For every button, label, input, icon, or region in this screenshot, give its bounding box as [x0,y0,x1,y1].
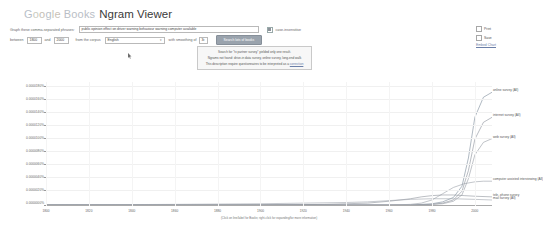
x-tick-label: 1820 [85,209,92,213]
corpus-selected-value: English [108,37,119,44]
chart-footnote: (Click on line/label for Books; right-cl… [221,216,317,220]
series-label[interactable]: online survey (All) [493,88,518,92]
gridline [46,125,492,126]
series-label[interactable]: internet survey (All) [493,113,520,117]
page-title: Ngram Viewer [99,8,172,20]
x-tick-label: 2000 [471,209,478,213]
y-tick-label: 0.0000160% [26,97,44,101]
y-tick-label: 0.0000140% [26,110,44,114]
notice-line-1: Search for "tv partner survey" yielded o… [202,50,307,54]
gridline [46,138,492,139]
vertical-gridline [132,82,133,206]
x-tick-label: 1840 [128,209,135,213]
y-tick-label: 0.0000100% [26,136,44,140]
gridline [46,177,492,178]
vertical-gridline [218,82,219,206]
year-start-input[interactable]: 1800 [27,37,42,44]
gridline [46,164,492,165]
print-label: Print [484,27,491,31]
y-tick-label: 0.0000000% [26,201,44,205]
x-tick-label: 1900 [257,209,264,213]
plot-area[interactable]: 1800182018401860188019001920194019601980… [46,82,492,206]
year-end-input[interactable]: 2000 [54,37,69,44]
x-tick-label: 1920 [300,209,307,213]
x-tick-label: 1800 [42,209,49,213]
vertical-gridline [475,82,476,206]
embed-chart-link[interactable]: Embed Chart [476,43,496,47]
gridline [46,151,492,152]
notice-correction-link[interactable]: correction [290,62,304,66]
vertical-gridline [346,82,347,206]
corpus-label: from the corpus [76,38,101,42]
x-tick-label: 1860 [171,209,178,213]
save-action[interactable]: Save [476,35,496,41]
y-tick-label: 0.0000120% [26,123,44,127]
corpus-select[interactable]: English ▾ [105,37,165,44]
case-insensitive-checkbox[interactable] [267,27,273,33]
y-tick-label: 0.0000180% [26,84,44,88]
gridline [46,99,492,100]
series-label[interactable]: web survey (All) [493,135,516,139]
save-icon [476,35,482,41]
phrases-input[interactable]: public opinion effect on driver warning … [79,26,259,33]
x-tick-label: 1980 [428,209,435,213]
print-action[interactable]: Print [476,26,496,32]
y-axis-labels: 0.0000180% 0.0000160% 0.0000140% 0.00001… [6,82,46,206]
query-row-phrases: Graph these comma-separated phrases: pub… [10,26,301,33]
series-label[interactable]: computer assisted interviewing (All) [493,177,543,181]
vertical-gridline [389,82,390,206]
gridline [46,190,492,191]
printer-icon [476,26,482,32]
smoothing-select[interactable]: 3 ▾ [199,37,208,44]
x-tick-label: 1960 [386,209,393,213]
case-insensitive-label: case-insensitive [276,28,302,32]
x-tick-label: 1880 [214,209,221,213]
notice-line-3: This description require questionnaires … [202,62,307,66]
ngram-chart[interactable]: 0.0000180% 0.0000160% 0.0000140% 0.00001… [6,82,496,222]
notice-line-3-pre: This description [206,62,228,66]
page-header: GoogleBooks Ngram Viewer [24,8,172,20]
chart-actions: Print Save Embed Chart [476,26,496,47]
notice-line-2: Ngrams not found: drive-in data survey, … [202,56,307,60]
gridline [46,112,492,113]
series-label[interactable]: mail survey (All) [493,196,516,200]
x-axis-line [46,205,492,206]
search-notice-box: Search for "tv partner survey" yielded o… [197,46,312,70]
mouse-cursor [128,53,132,59]
y-tick-label: 0.0000020% [26,188,44,192]
vertical-gridline [432,82,433,206]
vertical-gridline [303,82,304,206]
chevron-down-icon: ▾ [160,37,162,44]
graph-phrases-label: Graph these comma-separated phrases: [10,28,75,32]
query-row-options: between 1800 and 2000 from the corpus En… [10,35,262,45]
logo-books-word: Books [64,8,96,20]
save-label: Save [484,36,492,40]
google-books-logo[interactable]: GoogleBooks [24,8,95,20]
vertical-gridline [46,82,47,206]
and-label: and [45,38,51,42]
notice-line-3-mid: require questionnaires to be interpreted… [228,62,289,66]
smoothing-label: with smoothing of [169,38,197,42]
y-tick-label: 0.0000060% [26,162,44,166]
y-tick-label: 0.0000040% [26,175,44,179]
search-button[interactable]: Search lots of books [216,35,263,45]
vertical-gridline [260,82,261,206]
x-tick-label: 1940 [343,209,350,213]
gridline [46,86,492,87]
vertical-gridline [175,82,176,206]
chevron-down-icon-smoothing: ▾ [203,37,205,44]
y-tick-label: 0.0000080% [26,149,44,153]
series-lines[interactable] [46,82,492,206]
between-label: between [10,38,24,42]
vertical-gridline [89,82,90,206]
